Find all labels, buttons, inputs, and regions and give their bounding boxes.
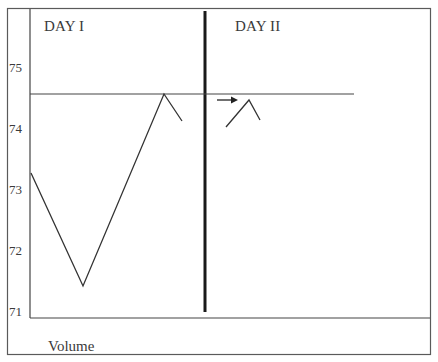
- y-tick-71: 71: [9, 304, 22, 320]
- y-tick-74: 74: [9, 121, 22, 137]
- day1-price-line: [31, 94, 182, 286]
- day2-label: DAY II: [235, 18, 281, 35]
- day1-label: DAY I: [44, 18, 84, 35]
- arrow-right-icon: [217, 97, 238, 104]
- volume-label: Volume: [48, 338, 94, 355]
- price-chart: [0, 0, 438, 362]
- y-tick-72: 72: [9, 243, 22, 259]
- day2-price-line: [226, 100, 260, 127]
- y-tick-75: 75: [9, 60, 22, 76]
- y-tick-73: 73: [9, 182, 22, 198]
- outer-frame: [8, 9, 431, 355]
